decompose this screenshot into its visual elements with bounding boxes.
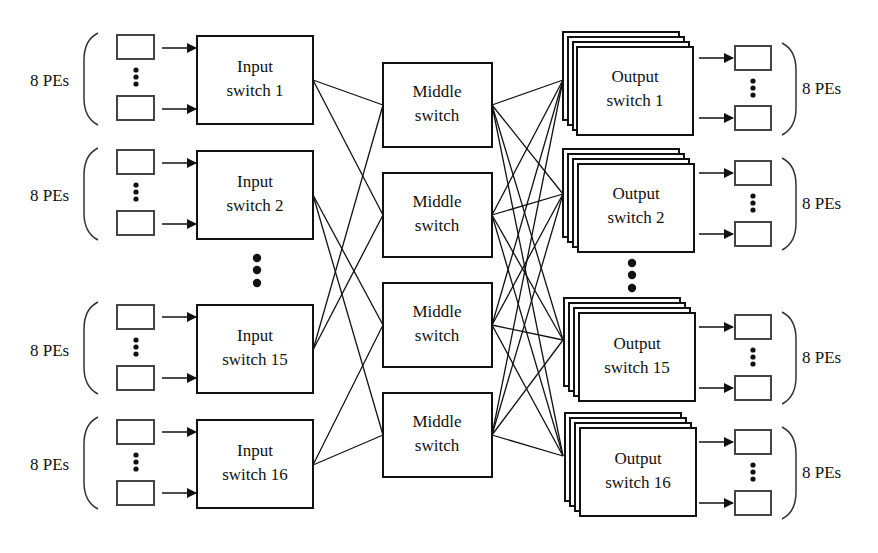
pe-group-label: 8 PEs [802,463,841,482]
switch-label: switch 2 [226,196,283,215]
switch-label: Output [613,334,661,353]
input-group-16: 8 PEs Input switch 16 [30,417,313,509]
right-brace-icon [782,312,796,404]
pe-box [735,106,771,130]
pe-group-label: 8 PEs [30,186,69,205]
switch-label: switch [415,326,460,345]
middle-to-output-links [492,80,563,456]
middle-switch-4: Middle switch [383,393,492,477]
pe-box [117,305,154,329]
switch-label: Output [614,449,662,468]
right-brace-icon [782,158,796,250]
clos-network-diagram: 8 PEs Input switch 1 8 PEs Input switch … [0,0,878,553]
input-switch-1 [197,36,313,124]
switch-label: switch [415,106,460,125]
input-group-15: 8 PEs Input switch 15 [30,302,313,394]
output-group-16: Output switch 16 8 PEs [565,413,841,519]
pe-box [735,376,771,400]
pe-group-label: 8 PEs [30,71,69,90]
switch-label: Middle [412,82,461,101]
middle-switch-1: Middle switch [383,63,492,147]
switch-label: switch [415,436,460,455]
switch-label: switch 16 [222,465,288,484]
switch-label: Input [237,326,273,345]
pe-box [117,481,154,505]
pe-group-label: 8 PEs [802,348,841,367]
pe-box [117,96,154,120]
pe-box [117,211,154,235]
switch-label: switch 15 [222,350,288,369]
pe-group-label: 8 PEs [30,341,69,360]
middle-switch-2: Middle switch [383,173,492,257]
switch-label: Input [237,57,273,76]
input-group-2: 8 PEs Input switch 2 [30,148,313,240]
switch-label: Middle [412,412,461,431]
left-brace-icon [84,33,98,125]
switch-label: switch 15 [604,358,670,377]
switch-label: switch 16 [605,473,671,492]
pe-box [735,430,771,454]
pe-group-label: 8 PEs [802,194,841,213]
output-group-1: Output switch 1 8 PEs [563,32,841,135]
pe-group-label: 8 PEs [30,455,69,474]
pe-box [117,366,154,390]
switch-label: Output [611,67,659,86]
input-switch-16 [197,420,313,508]
pe-box [735,315,771,339]
input-ellipsis-icon [253,254,261,287]
switch-label: Middle [412,192,461,211]
input-switch-2 [197,151,313,239]
switch-label: switch 2 [607,208,664,227]
right-brace-icon [782,43,796,135]
switch-label: switch 1 [226,81,283,100]
output-group-2: Output switch 2 8 PEs [563,149,841,252]
input-group-1: 8 PEs Input switch 1 [30,33,313,125]
pe-box [735,46,771,70]
switch-label: switch 1 [606,91,663,110]
output-switch-16 [580,428,696,516]
switch-label: Input [237,172,273,191]
pe-box [735,161,771,185]
middle-switch-3: Middle switch [383,283,492,367]
pe-box [117,420,154,444]
output-switch-15 [579,313,695,401]
pe-box [117,150,154,174]
pe-box [735,222,771,246]
switch-label: Output [612,184,660,203]
input-switch-15 [197,305,313,393]
switch-label: Input [237,441,273,460]
switch-label: Middle [412,302,461,321]
switch-label: switch [415,216,460,235]
input-to-middle-links [313,80,383,465]
pe-group-label: 8 PEs [802,79,841,98]
pe-box [735,491,771,515]
output-group-15: Output switch 15 8 PEs [564,298,841,404]
output-ellipsis-icon [628,259,636,292]
left-brace-icon [84,417,98,509]
left-brace-icon [84,302,98,394]
left-brace-icon [84,148,98,240]
right-brace-icon [782,427,796,519]
pe-box [117,35,154,59]
